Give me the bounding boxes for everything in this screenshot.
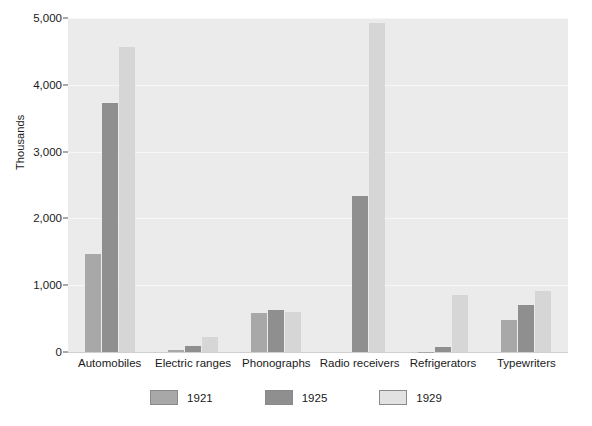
- legend-item: 1921: [150, 390, 213, 405]
- legend-item: 1925: [265, 390, 328, 405]
- bar-group: [251, 18, 301, 352]
- bar: [535, 291, 551, 352]
- y-axis-tick-label: 2,000: [6, 212, 62, 224]
- category-label: Radio receivers: [320, 357, 400, 369]
- bar: [435, 347, 451, 352]
- y-axis-ticks: 01,0002,0003,0004,0005,000: [0, 0, 62, 426]
- y-axis-tick-label: 3,000: [6, 146, 62, 158]
- legend-item: 1929: [379, 390, 442, 405]
- bar: [285, 312, 301, 352]
- category-label: Typewriters: [497, 357, 556, 369]
- bar-chart: Thousands 01,0002,0003,0004,0005,000 Aut…: [0, 0, 592, 426]
- category-label: Automobiles: [78, 357, 141, 369]
- bar-group: [501, 18, 551, 352]
- bar: [202, 337, 218, 352]
- bar: [102, 103, 118, 352]
- bars-layer: [68, 18, 568, 352]
- bar-group: [335, 18, 385, 352]
- bar: [85, 254, 101, 352]
- bar: [268, 310, 284, 352]
- legend-label: 1921: [187, 392, 213, 404]
- y-axis-tick-label: 4,000: [6, 79, 62, 91]
- bar: [185, 346, 201, 352]
- legend-label: 1925: [302, 392, 328, 404]
- bar-group: [418, 18, 468, 352]
- legend-swatch: [379, 390, 407, 405]
- bar: [168, 350, 184, 352]
- bar: [369, 23, 385, 352]
- bar-group: [168, 18, 218, 352]
- legend-label: 1929: [416, 392, 442, 404]
- x-axis-line: [68, 352, 568, 353]
- bar: [251, 313, 267, 352]
- y-axis-tick-label: 5,000: [6, 12, 62, 24]
- bar: [119, 47, 135, 352]
- bar: [452, 295, 468, 352]
- bar: [518, 305, 534, 352]
- y-axis-tick-label: 1,000: [6, 279, 62, 291]
- category-label: Electric ranges: [155, 357, 231, 369]
- bar-group: [85, 18, 135, 352]
- legend-swatch: [265, 390, 293, 405]
- y-axis-tick-label: 0: [6, 346, 62, 358]
- legend: 192119251929: [0, 390, 592, 405]
- category-label: Refrigerators: [410, 357, 476, 369]
- legend-swatch: [150, 390, 178, 405]
- bar: [501, 320, 517, 352]
- category-label: Phonographs: [242, 357, 310, 369]
- bar: [352, 196, 368, 352]
